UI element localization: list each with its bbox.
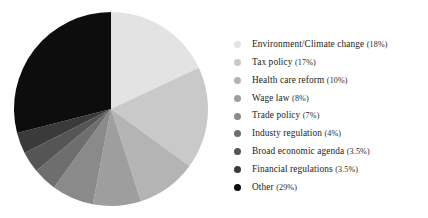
legend-item-percent: (18%) [367,40,388,49]
legend-swatch-dot-icon [234,130,241,137]
legend-item-percent: (8%) [292,94,309,103]
legend-swatch-dot-icon [234,184,241,191]
legend-item-percent: (4%) [325,129,342,138]
legend-item-label: Health care reform (10%) [252,76,348,85]
legend-item[interactable]: Health care reform (10%) [234,72,428,90]
legend-item-label: Environment/Climate change (18%) [252,40,388,49]
legend-item-percent: (29%) [276,183,297,192]
pie-slice-group [14,12,208,206]
pie-chart-figure: Environment/Climate change (18%)Tax poli… [0,0,428,218]
legend-item-label: Tax policy (17%) [252,58,316,67]
legend-item-label: Industy regulation (4%) [252,129,341,138]
legend-item[interactable]: Industy regulation (4%) [234,125,428,143]
legend-item-percent: (7%) [303,111,320,120]
legend-item[interactable]: Trade policy (7%) [234,107,428,125]
legend-item[interactable]: Tax policy (17%) [234,54,428,72]
legend-swatch-dot-icon [234,166,241,173]
legend-swatch-dot-icon [234,113,241,120]
legend-item[interactable]: Wage law (8%) [234,89,428,107]
legend-item-percent: (10%) [327,76,348,85]
legend-swatch-dot-icon [234,148,241,155]
legend-swatch-dot-icon [234,95,241,102]
legend-item-percent: (3.5%) [347,147,370,156]
legend-item[interactable]: Financial regulations (3.5%) [234,161,428,179]
legend-item-label: Other (29%) [252,183,297,192]
legend-item-label: Wage law (8%) [252,94,309,103]
legend-swatch-dot-icon [234,41,241,48]
legend-item-percent: (17%) [295,58,316,67]
legend-swatch-dot-icon [234,59,241,66]
legend-item[interactable]: Broad economic agenda (3.5%) [234,143,428,161]
legend-item-label: Financial regulations (3.5%) [252,165,358,174]
legend-item-percent: (3.5%) [335,165,358,174]
legend-item-label: Broad economic agenda (3.5%) [252,147,370,156]
legend-swatch-dot-icon [234,77,241,84]
legend-item[interactable]: Other (29%) [234,178,428,196]
legend-item-label: Trade policy (7%) [252,111,319,120]
pie-chart-graphic [13,11,209,207]
legend-item[interactable]: Environment/Climate change (18%) [234,36,428,54]
chart-legend: Environment/Climate change (18%)Tax poli… [234,36,428,196]
